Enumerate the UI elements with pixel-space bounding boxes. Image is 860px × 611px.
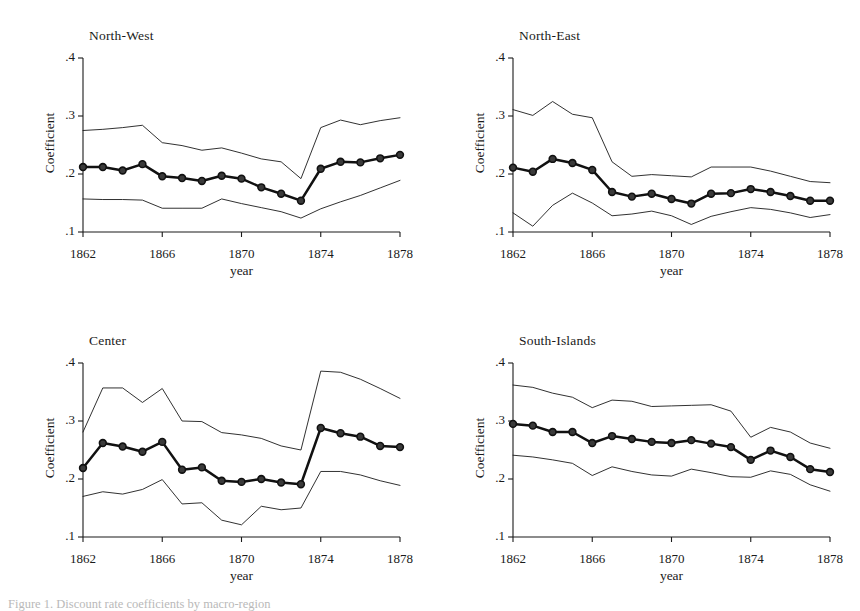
data-point-marker (549, 156, 556, 163)
data-point-marker (278, 190, 285, 197)
data-point-marker (317, 425, 324, 432)
data-point-marker (747, 456, 754, 463)
data-point-marker (337, 430, 344, 437)
data-point-marker (80, 465, 87, 472)
confidence-interval-upper (83, 118, 400, 179)
data-point-marker (139, 448, 146, 455)
data-point-marker (648, 190, 655, 197)
confidence-interval-upper (83, 371, 400, 450)
data-point-marker (668, 196, 675, 203)
data-point-marker (787, 193, 794, 200)
confidence-interval-lower (83, 180, 400, 218)
data-point-marker (218, 477, 225, 484)
data-point-marker (80, 164, 87, 171)
coefficient-line (513, 424, 830, 472)
data-point-marker (198, 464, 205, 471)
data-point-marker (179, 175, 186, 182)
chart-panel-south-islands: South-IslandsCoefficientyear.1.2.3.41862… (430, 305, 860, 605)
data-point-marker (99, 164, 106, 171)
data-point-marker (139, 161, 146, 168)
data-point-marker (827, 197, 834, 204)
data-point-marker (807, 197, 814, 204)
data-point-marker (510, 164, 517, 171)
plot-area (0, 0, 430, 300)
chart-panel-center: CenterCoefficientyear.1.2.3.418621866187… (0, 305, 430, 605)
data-point-marker (648, 438, 655, 445)
confidence-interval-upper (513, 102, 830, 183)
plot-area (430, 0, 860, 300)
data-point-marker (767, 189, 774, 196)
data-point-marker (708, 440, 715, 447)
data-point-marker (609, 189, 616, 196)
data-point-marker (529, 422, 536, 429)
data-point-marker (708, 190, 715, 197)
data-point-marker (218, 172, 225, 179)
data-point-marker (397, 151, 404, 158)
data-point-marker (569, 160, 576, 167)
data-point-marker (510, 421, 517, 428)
data-point-marker (357, 159, 364, 166)
data-point-marker (337, 158, 344, 165)
data-point-marker (317, 165, 324, 172)
data-point-marker (397, 444, 404, 451)
data-point-marker (589, 167, 596, 174)
data-point-marker (159, 438, 166, 445)
data-point-marker (298, 481, 305, 488)
data-point-marker (747, 186, 754, 193)
data-point-marker (569, 429, 576, 436)
data-point-marker (238, 479, 245, 486)
data-point-marker (258, 184, 265, 191)
data-point-marker (238, 175, 245, 182)
data-point-marker (119, 443, 126, 450)
data-point-marker (278, 479, 285, 486)
data-point-marker (728, 444, 735, 451)
plot-area (0, 305, 430, 605)
figure-caption: Figure 1. Discount rate coefficients by … (8, 597, 271, 611)
data-point-marker (728, 190, 735, 197)
confidence-interval-lower (513, 455, 830, 491)
data-point-marker (99, 440, 106, 447)
data-point-marker (628, 436, 635, 443)
data-point-marker (377, 155, 384, 162)
data-point-marker (357, 433, 364, 440)
confidence-interval-upper (513, 385, 830, 448)
data-point-marker (688, 200, 695, 207)
data-point-marker (179, 466, 186, 473)
data-point-marker (787, 454, 794, 461)
data-point-marker (767, 447, 774, 454)
data-point-marker (198, 178, 205, 185)
data-point-marker (668, 440, 675, 447)
data-point-marker (377, 443, 384, 450)
chart-panel-north-west: North-WestCoefficientyear.1.2.3.41862186… (0, 0, 430, 300)
coefficient-line (83, 428, 400, 484)
data-point-marker (609, 433, 616, 440)
data-point-marker (549, 429, 556, 436)
data-point-marker (807, 466, 814, 473)
data-point-marker (628, 193, 635, 200)
data-point-marker (298, 197, 305, 204)
data-point-marker (589, 440, 596, 447)
data-point-marker (529, 168, 536, 175)
data-point-marker (159, 173, 166, 180)
chart-panel-north-east: North-EastCoefficientyear.1.2.3.41862186… (430, 0, 860, 300)
data-point-marker (119, 167, 126, 174)
data-point-marker (827, 469, 834, 476)
data-point-marker (688, 437, 695, 444)
figure-panel-grid: North-WestCoefficientyear.1.2.3.41862186… (0, 0, 860, 611)
data-point-marker (258, 476, 265, 483)
plot-area (430, 305, 860, 605)
